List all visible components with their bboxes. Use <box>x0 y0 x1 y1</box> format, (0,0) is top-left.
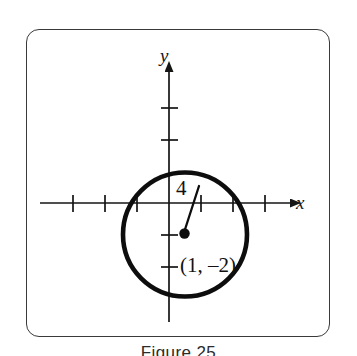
coordinate-plane-graph: x y 4 (1, –2) <box>0 0 357 356</box>
center-coordinates-label: (1, –2) <box>180 253 236 277</box>
center-point-marker <box>179 228 189 238</box>
y-axis-label: y <box>158 45 169 66</box>
x-axis-label: x <box>295 192 305 213</box>
radius-length-label: 4 <box>176 176 187 200</box>
radius-segment <box>185 186 200 231</box>
figure-container: x y 4 (1, –2) Figure 25 <box>0 0 357 356</box>
figure-caption: Figure 25 <box>0 343 357 356</box>
